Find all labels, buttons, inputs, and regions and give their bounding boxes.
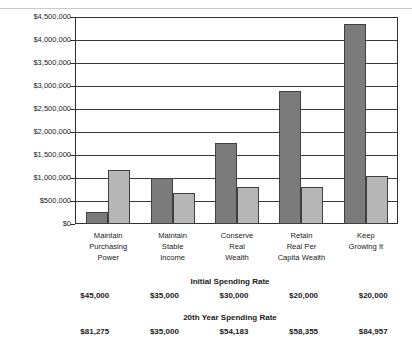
scan-artifact-line <box>0 8 412 9</box>
twentieth-year-spending-rate-title: 20th Year Spending Rate <box>60 313 412 323</box>
y-axis-tick-label: $3,000,000 <box>0 82 71 90</box>
category-label-line: Capita Wealth <box>270 252 332 263</box>
initial-spending-rate-block: Initial Spending Rate $45,000$35,000$30,… <box>60 277 412 301</box>
category-label-line: Growing It <box>335 241 397 252</box>
y-axis-tick-label: $2,500,000 <box>0 105 71 113</box>
x-axis-category-labels: MaintainPurchasingPowerMaintainStableInc… <box>76 230 398 264</box>
y-axis-tick-label: $2,000,000 <box>0 128 71 136</box>
category-label-2: ConserveRealWealth <box>205 230 269 264</box>
category-label-line: Real <box>206 241 268 252</box>
y-axis-tick-label: $1,500,000 <box>0 151 71 159</box>
y-axis-tick-label: $3,500,000 <box>0 59 71 67</box>
twentieth-spending-rate-value-3: $58,355 <box>269 327 339 337</box>
initial-spending-rate-value-4: $20,000 <box>338 291 408 301</box>
category-label-line: Stable <box>141 241 203 252</box>
twentieth-spending-rate-value-2: $54,183 <box>199 327 269 337</box>
bar-dark <box>86 212 108 224</box>
bar-group <box>76 17 140 224</box>
initial-spending-rate-value-1: $35,000 <box>130 291 200 301</box>
bar-light <box>366 176 388 224</box>
category-label-line: Wealth <box>206 252 268 263</box>
category-label-4: KeepGrowing It <box>334 230 398 264</box>
bar-dark <box>215 143 237 224</box>
y-axis-tick-label: $4,500,000 <box>0 13 71 21</box>
initial-spending-rate-value-2: $30,000 <box>199 291 269 301</box>
category-label-line: Purchasing <box>77 241 139 252</box>
twentieth-spending-rate-value-4: $84,957 <box>338 327 408 337</box>
category-label-line: Power <box>77 252 139 263</box>
category-label-line: Income <box>141 252 203 263</box>
twentieth-year-spending-rate-values: $81,275$35,000$54,183$58,355$84,957 <box>60 327 412 337</box>
category-label-line: Conserve <box>206 230 268 241</box>
category-label-line: Maintain <box>141 230 203 241</box>
category-label-1: MaintainStableIncome <box>140 230 204 264</box>
y-axis-tick-label: $0 <box>0 220 71 228</box>
category-label-line: Retain <box>270 230 332 241</box>
y-axis-tick-label: $500,000 <box>0 197 71 205</box>
y-axis-tick-label: $4,000,000 <box>0 36 71 44</box>
initial-spending-rate-title: Initial Spending Rate <box>60 277 412 287</box>
bar-dark <box>151 178 173 224</box>
bar-light <box>301 187 323 224</box>
category-label-3: RetainReal PerCapita Wealth <box>269 230 333 264</box>
category-label-line: Real Per <box>270 241 332 252</box>
y-axis-tick-mark <box>70 224 75 225</box>
bar-group <box>205 17 269 224</box>
bar-dark <box>279 91 301 224</box>
twentieth-spending-rate-value-1: $35,000 <box>130 327 200 337</box>
initial-spending-rate-value-3: $20,000 <box>269 291 339 301</box>
category-label-line: Keep <box>335 230 397 241</box>
twentieth-spending-rate-value-0: $81,275 <box>60 327 130 337</box>
category-label-0: MaintainPurchasingPower <box>76 230 140 264</box>
category-label-line: Maintain <box>77 230 139 241</box>
bar-dark <box>344 24 366 224</box>
bar-groups <box>76 17 398 224</box>
bar-light <box>237 187 259 224</box>
initial-spending-rate-value-0: $45,000 <box>60 291 130 301</box>
initial-spending-rate-values: $45,000$35,000$30,000$20,000$20,000 <box>60 291 412 301</box>
bar-light <box>173 193 195 224</box>
bar-group <box>334 17 398 224</box>
y-axis-tick-label: $1,000,000 <box>0 174 71 182</box>
bar-group <box>140 17 204 224</box>
bar-group <box>269 17 333 224</box>
bar-light <box>108 170 130 224</box>
twentieth-year-spending-rate-block: 20th Year Spending Rate $81,275$35,000$5… <box>60 313 412 337</box>
